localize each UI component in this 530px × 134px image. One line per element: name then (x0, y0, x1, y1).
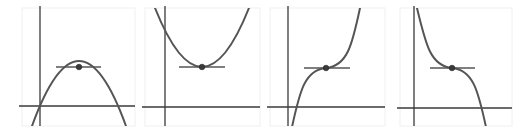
stationary-points-figure (0, 0, 530, 134)
stationary-point-marker (449, 65, 455, 71)
graph-panel-4 (397, 6, 512, 127)
graph-panel-3 (267, 6, 385, 127)
stationary-point-marker (323, 65, 329, 71)
graph-panel-2 (142, 6, 260, 126)
stationary-point-marker (76, 64, 82, 70)
graph-panel-1 (19, 6, 135, 126)
stationary-point-marker (199, 64, 205, 70)
